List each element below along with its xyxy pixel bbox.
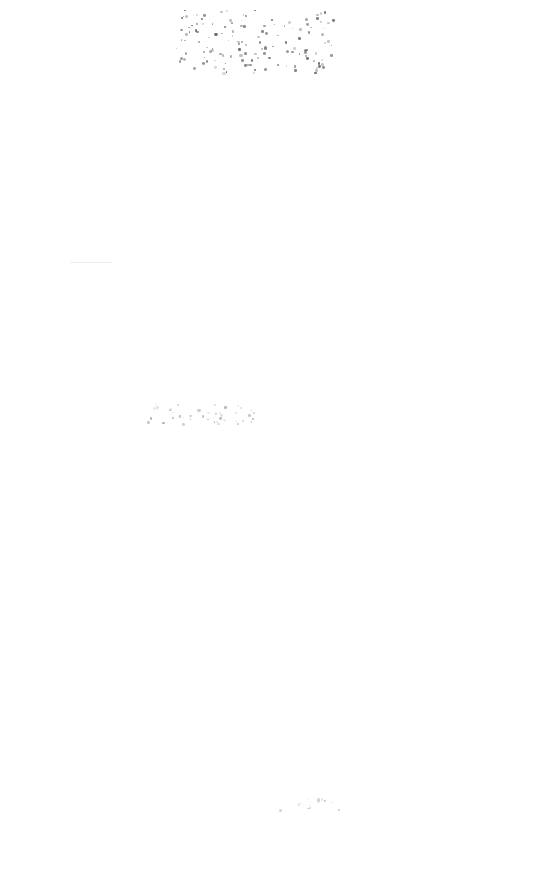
speckle — [294, 65, 296, 67]
speckle — [185, 52, 188, 55]
speckle — [155, 404, 156, 405]
speckle — [307, 808, 309, 810]
speckle — [277, 35, 278, 36]
speckle — [184, 10, 185, 11]
speckle — [257, 57, 259, 59]
speckle — [261, 48, 263, 50]
speckle — [321, 59, 323, 61]
speckle — [245, 44, 247, 46]
speckle — [214, 33, 217, 36]
speckle — [249, 64, 252, 67]
speckle — [254, 69, 256, 71]
speckle — [202, 62, 205, 65]
faint-rule — [70, 262, 112, 263]
speckle — [318, 62, 321, 65]
speckle — [238, 43, 240, 45]
speckle — [241, 41, 243, 43]
speckle — [213, 22, 214, 23]
top-heading-smudge — [176, 10, 336, 72]
speckle — [172, 417, 174, 419]
speckle — [221, 33, 223, 35]
speckle — [212, 23, 214, 25]
scanned-page — [0, 0, 541, 881]
speckle — [268, 57, 270, 59]
speckle — [239, 54, 242, 57]
speckle — [180, 29, 183, 32]
speckle — [203, 51, 205, 53]
speckle — [252, 418, 254, 420]
speckle — [245, 15, 247, 17]
speckle — [307, 799, 308, 800]
speckle — [321, 63, 324, 66]
speckle — [219, 412, 221, 414]
speckle — [331, 45, 332, 46]
speckle — [215, 412, 216, 413]
speckle — [238, 48, 241, 51]
speckle — [254, 10, 255, 11]
speckle — [253, 412, 255, 414]
speckle — [222, 54, 225, 57]
speckle — [150, 417, 152, 419]
speckle — [196, 23, 198, 25]
speckle — [224, 26, 226, 28]
speckle — [232, 35, 234, 37]
speckle — [223, 68, 225, 70]
speckle — [298, 803, 301, 806]
speckle — [202, 415, 205, 418]
speckle — [248, 414, 251, 417]
speckle — [298, 37, 301, 40]
speckle — [181, 17, 183, 19]
speckle — [242, 420, 244, 422]
speckle — [206, 60, 209, 63]
speckle — [225, 63, 226, 64]
speckle — [251, 59, 254, 62]
speckle — [202, 23, 204, 25]
speckle — [323, 28, 324, 29]
speckle — [332, 19, 335, 22]
speckle — [271, 19, 273, 21]
speckle — [241, 59, 244, 62]
speckle — [313, 60, 315, 62]
speckle — [179, 60, 181, 62]
speckle — [338, 809, 340, 811]
speckle — [309, 807, 311, 809]
speckle — [322, 66, 325, 69]
speckle — [265, 32, 268, 35]
speckle — [251, 421, 253, 423]
speckle — [226, 10, 228, 12]
speckle — [176, 48, 177, 49]
speckle — [324, 11, 326, 13]
speckle — [308, 31, 311, 34]
speckle — [294, 69, 297, 72]
speckle — [196, 14, 198, 16]
speckle — [206, 47, 208, 49]
speckle — [209, 50, 212, 53]
speckle — [293, 47, 296, 50]
speckle — [274, 24, 275, 25]
speckle — [237, 423, 239, 425]
speckle — [220, 11, 223, 14]
speckle — [179, 415, 182, 418]
speckle — [201, 18, 204, 21]
speckle — [241, 20, 242, 21]
speckle — [226, 71, 227, 72]
speckle — [237, 405, 238, 406]
speckle — [222, 72, 225, 75]
speckle — [237, 41, 239, 43]
speckle — [264, 46, 267, 49]
speckle — [272, 46, 274, 48]
speckle — [214, 421, 216, 423]
speckle — [315, 52, 317, 54]
speckle — [147, 421, 150, 424]
speckle — [162, 422, 164, 424]
speckle — [327, 40, 330, 43]
speckle — [299, 28, 302, 31]
speckle — [244, 52, 247, 55]
speckle — [300, 803, 302, 805]
speckle — [189, 415, 191, 417]
speckle — [184, 40, 185, 41]
speckle — [244, 64, 247, 67]
speckle — [197, 409, 200, 412]
speckle — [223, 419, 226, 422]
speckle — [185, 33, 188, 36]
